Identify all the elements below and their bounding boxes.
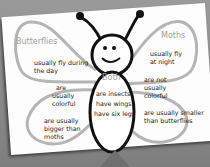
both-fact-2: have wings (96, 100, 132, 107)
moths-fact-2c: colorful (144, 92, 167, 99)
butterflies-fact-2a: are (56, 84, 66, 91)
both-fact-3: have six legs (94, 110, 135, 117)
right-antenna (124, 16, 138, 42)
moths-fact-3b: than butterflies (144, 117, 193, 124)
both-fact-1: are insects (96, 90, 130, 97)
butterflies-fact-3a: are usually (44, 117, 79, 124)
butterflies-fact-3b: bigger than (44, 125, 81, 132)
head (92, 35, 132, 75)
stand (100, 150, 130, 167)
moths-fact-3a: are usually smaller (144, 109, 204, 116)
moths-fact-2b: usually (144, 84, 166, 91)
moths-fact-2a: are not (144, 76, 167, 83)
moths-fact-1b: at night (150, 58, 175, 65)
butterflies-fact-1a: usually fly during (34, 59, 88, 66)
butterfly-drawing (0, 0, 210, 167)
butterflies-fact-1b: the day (34, 67, 58, 74)
butterflies-fact-3c: moths (44, 133, 64, 140)
butterflies-fact-2b: usually (52, 92, 74, 99)
moths-heading: Moths (161, 31, 185, 40)
both-heading: Both (102, 73, 121, 82)
moths-fact-1a: usually fly (150, 50, 182, 57)
butterflies-heading: Butterflies (16, 37, 57, 46)
butterflies-fact-2c: colorful (52, 100, 75, 107)
